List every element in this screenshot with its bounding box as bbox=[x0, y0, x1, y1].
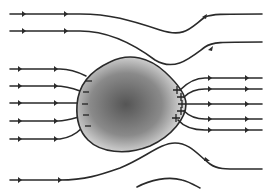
field-lines-right bbox=[178, 75, 262, 133]
conductor-body bbox=[77, 57, 186, 152]
field-lines-top bbox=[10, 11, 262, 65]
field-lines-left bbox=[10, 66, 86, 142]
field-line-diagram bbox=[0, 0, 271, 192]
